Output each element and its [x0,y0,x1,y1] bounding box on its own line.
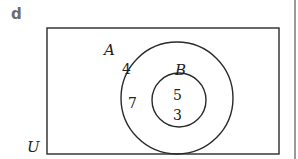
set-a-label: A [102,41,115,59]
region-a-only-left-value: 7 [128,95,137,111]
region-a-only-top-value: 4 [122,61,131,77]
region-b-bottom-value: 3 [173,107,182,123]
venn-diagram: A B U 4 7 5 3 [0,0,298,159]
universe-label: U [27,138,41,156]
set-b-label: B [174,61,186,79]
region-b-top-value: 5 [173,87,182,103]
universe-rectangle [47,28,279,154]
